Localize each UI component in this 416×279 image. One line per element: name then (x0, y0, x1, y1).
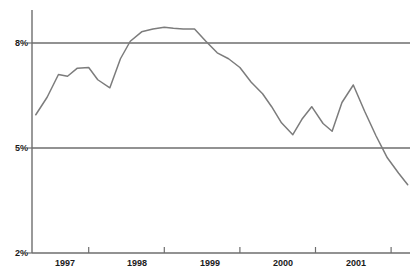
y-axis-label-2pct: 2% (2, 248, 28, 258)
axes (32, 10, 410, 253)
chart-plot-area (0, 0, 416, 279)
gridlines (32, 43, 410, 148)
x-axis-ticks (89, 247, 391, 253)
data-series-line (36, 27, 408, 185)
x-axis-label-1997: 1997 (45, 258, 85, 268)
line-chart: 8% 5% 2% 1997 1998 1999 2000 2001 (0, 0, 416, 279)
x-axis-label-1999: 1999 (190, 258, 230, 268)
x-axis-label-2001: 2001 (336, 258, 376, 268)
y-axis-label-5pct: 5% (2, 143, 28, 153)
y-axis-label-8pct: 8% (2, 38, 28, 48)
x-axis-label-2000: 2000 (263, 258, 303, 268)
x-axis-label-1998: 1998 (117, 258, 157, 268)
